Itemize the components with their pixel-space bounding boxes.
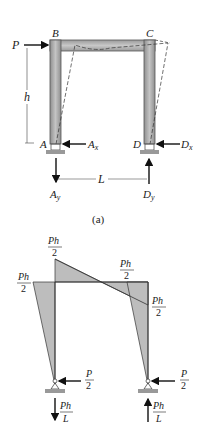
svg-text:P: P <box>85 368 92 379</box>
joint-a-label: A <box>39 138 47 150</box>
reaction-ax-label: Ax <box>87 138 99 152</box>
label-left-top: Ph 2 <box>47 235 62 258</box>
svg-text:2: 2 <box>181 380 186 391</box>
svg-text:2: 2 <box>86 380 91 391</box>
reaction-dx-label: Dx <box>180 138 193 152</box>
caption-a: (a) <box>92 213 105 226</box>
svg-text:Ph: Ph <box>119 258 131 269</box>
svg-text:2: 2 <box>21 283 26 294</box>
portal-frame-figure: P h B C A D Ax Dx Ay Dy L (a) <box>0 0 202 427</box>
right-vertical-label: Ph L <box>152 400 166 424</box>
frame-part-a: P h B C A D Ax Dx Ay Dy L (a) <box>11 27 193 226</box>
svg-text:2: 2 <box>52 247 57 258</box>
column-dc <box>144 40 155 144</box>
svg-text:Ph: Ph <box>17 271 29 282</box>
svg-text:L: L <box>155 413 162 424</box>
support-a <box>46 144 65 154</box>
height-label: h <box>24 90 30 104</box>
label-right-side: Ph 2 <box>151 295 166 318</box>
left-vertical-label: Ph L <box>59 400 73 424</box>
left-horizontal-label: P 2 <box>85 368 94 391</box>
joint-b-label: B <box>52 27 59 39</box>
svg-text:Ph: Ph <box>151 295 163 306</box>
svg-text:Ph: Ph <box>152 400 164 411</box>
svg-text:Ph: Ph <box>59 400 71 411</box>
support-d <box>140 144 159 154</box>
span-label: L <box>97 172 105 186</box>
label-left-side: Ph 2 <box>17 271 31 294</box>
joint-c-label: C <box>146 27 154 39</box>
moment-right-column <box>127 282 148 385</box>
load-p-label: P <box>11 38 20 52</box>
reaction-dy-label: Dy <box>142 188 155 202</box>
svg-text:P: P <box>180 368 187 379</box>
moment-left-column <box>33 282 55 385</box>
svg-text:2: 2 <box>124 270 129 281</box>
svg-text:Ph: Ph <box>47 235 59 246</box>
joint-d-label: D <box>132 138 141 150</box>
label-right-top: Ph 2 <box>119 258 134 281</box>
svg-text:L: L <box>62 413 69 424</box>
moment-diagram: Ph 2 Ph 2 Ph 2 Ph 2 <box>17 235 189 424</box>
right-horizontal-label: P 2 <box>180 368 189 391</box>
svg-text:2: 2 <box>156 307 161 318</box>
reaction-ay-label: Ay <box>49 188 61 202</box>
